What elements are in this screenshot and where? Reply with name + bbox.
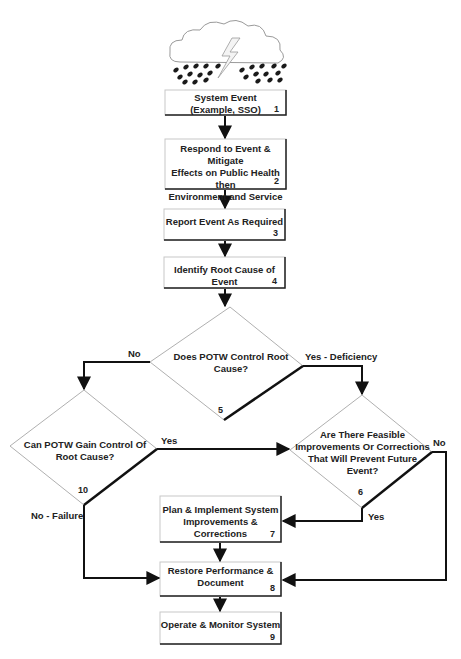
node-10-number: 10 (78, 485, 88, 495)
edge-label-10-yes: Yes (161, 435, 177, 446)
node-8-number: 8 (270, 583, 275, 593)
node-6-label: Are There Feasible Improvements Or Corre… (295, 429, 430, 477)
node-9-number: 9 (270, 632, 275, 642)
edge-6-7-yes (283, 508, 362, 521)
node-2-number: 2 (274, 176, 279, 186)
edge-label-5-yes-deficiency: Yes - Deficiency (305, 351, 377, 362)
node-3-label: Report Event As Required (164, 216, 285, 228)
node-1-label: System Event (Example, SSO) (165, 92, 286, 116)
edge-label-6-yes: Yes (368, 511, 384, 522)
node-10-label: Can POTW Gain Control Of Root Cause? (20, 439, 150, 463)
node-4-label: Identify Root Cause of Event (164, 264, 285, 288)
node-1-number: 1 (274, 104, 279, 114)
edge-5-10-no (84, 362, 150, 389)
node-4-number: 4 (272, 276, 277, 286)
node-2-label: Respond to Event & Mitigate Effects on P… (163, 143, 288, 203)
edge-label-6-no: No (433, 437, 446, 448)
node-5-number: 5 (218, 405, 223, 415)
node-3-number: 3 (273, 228, 278, 238)
edge-label-5-no: No (128, 348, 141, 359)
node-7-number: 7 (270, 529, 275, 539)
node-5-label: Does POTW Control Root Cause? (166, 351, 296, 375)
node-8-label: Restore Performance & Document (160, 565, 281, 589)
node-6-number: 6 (358, 487, 363, 497)
node-7-label: Plan & Implement System Improvements & C… (158, 504, 283, 540)
edge-5-6-yes (303, 366, 362, 394)
node-9-label: Operate & Monitor System (160, 619, 281, 631)
storm-cloud-icon (170, 20, 288, 85)
edge-10-8-no (84, 505, 159, 578)
edge-label-10-no-failure: No - Failure (31, 510, 83, 521)
